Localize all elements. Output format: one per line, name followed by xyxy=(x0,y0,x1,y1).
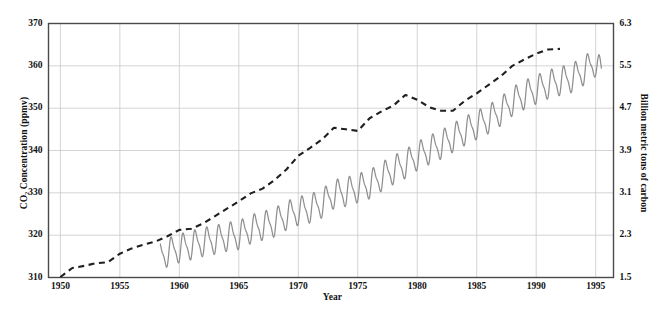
x-tick-1990: 1990 xyxy=(514,281,558,291)
y-tick-left-360: 360 xyxy=(3,60,43,70)
y-tick-right-5.5: 5.5 xyxy=(620,60,660,70)
y-tick-right-1.5: 1.5 xyxy=(620,272,660,282)
plot-canvas xyxy=(0,0,665,314)
y-tick-right-4.7: 4.7 xyxy=(620,102,660,112)
x-tick-1975: 1975 xyxy=(336,281,380,291)
x-tick-1985: 1985 xyxy=(455,281,499,291)
y-tick-right-2.3: 2.3 xyxy=(620,229,660,239)
x-axis-title: Year xyxy=(0,292,665,302)
x-tick-1965: 1965 xyxy=(217,281,261,291)
y-tick-right-6.3: 6.3 xyxy=(620,18,660,28)
y-tick-left-330: 330 xyxy=(3,187,43,197)
x-tick-1970: 1970 xyxy=(276,281,320,291)
x-tick-1995: 1995 xyxy=(574,281,618,291)
series-line-emissions xyxy=(60,49,560,277)
x-tick-1960: 1960 xyxy=(157,281,201,291)
y-tick-right-3.9: 3.9 xyxy=(620,145,660,155)
y-tick-left-310: 310 xyxy=(3,272,43,282)
figure-caption xyxy=(8,305,658,314)
y-tick-left-340: 340 xyxy=(3,145,43,155)
x-tick-1980: 1980 xyxy=(395,281,439,291)
x-tick-1950: 1950 xyxy=(38,281,82,291)
y-tick-right-3.1: 3.1 xyxy=(620,187,660,197)
x-tick-1955: 1955 xyxy=(98,281,142,291)
y-tick-left-320: 320 xyxy=(3,229,43,239)
co2-emissions-chart: CO₂ Concentration (ppmv) Billion metric … xyxy=(0,0,665,314)
y-tick-left-350: 350 xyxy=(3,102,43,112)
gridlines xyxy=(49,24,614,278)
y-tick-left-370: 370 xyxy=(3,18,43,28)
